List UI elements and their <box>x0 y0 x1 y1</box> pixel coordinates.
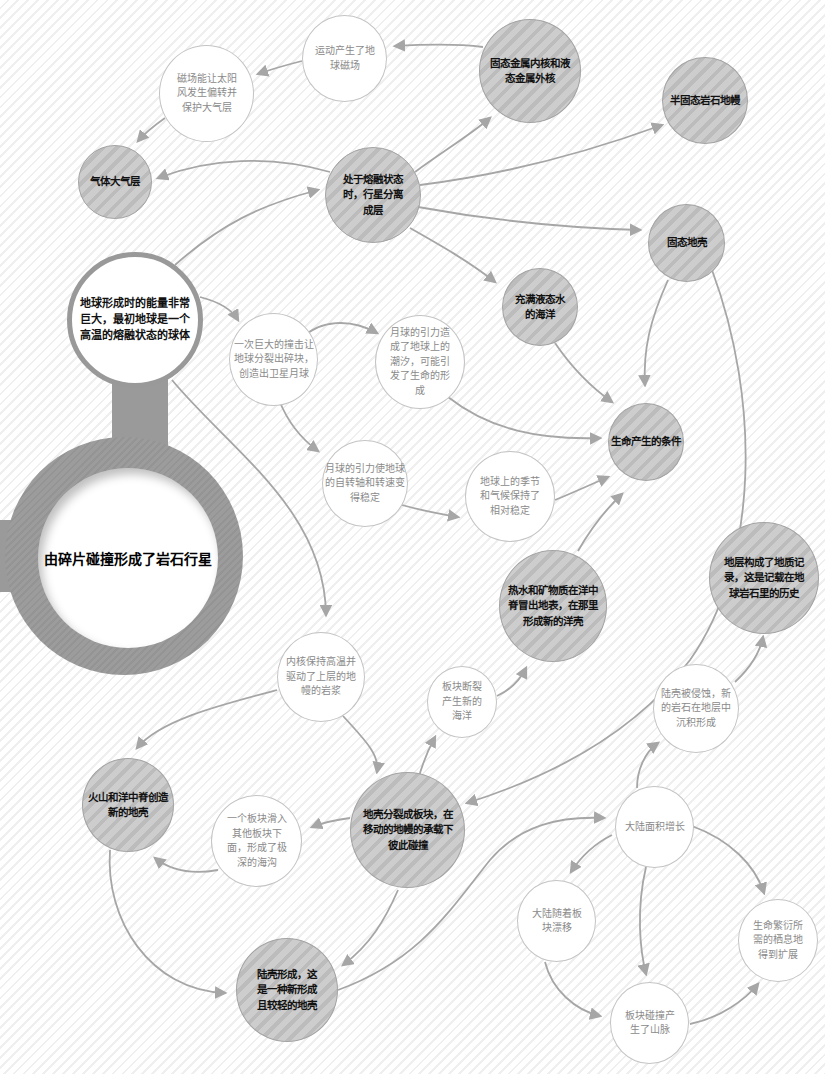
node-label: 运动产生了地球磁场 <box>312 44 378 73</box>
edge-hot-earth-to-impact <box>200 297 238 320</box>
node-label: 固态地壳 <box>667 235 707 250</box>
edge-magnetic-to-solarwind <box>258 61 302 74</box>
node-label: 大陆面积增长 <box>625 820 685 835</box>
edge-crust-to-life <box>645 280 668 385</box>
edge-growth-to-habitat <box>692 826 764 893</box>
node-subduction[interactable]: 一个板块滑入其他板块下面，形成了极深的海沟 <box>211 795 302 887</box>
node-label: 月球的引力使地球的自转轴和转速变得稳定 <box>325 462 405 506</box>
node-hydrothermal[interactable]: 热水和矿物质在洋中脊冒出地表，在那里形成新的洋壳 <box>499 550 607 662</box>
edge-drift-to-mountains <box>545 962 600 1016</box>
node-impact-moon[interactable]: 一次巨大的撞击让地球分裂出碎块，创造出卫星月球 <box>229 313 318 406</box>
edge-rotation-to-seasons <box>402 505 458 517</box>
node-life-conditions[interactable]: 生命产生的条件 <box>608 403 684 481</box>
edge-growth-to-erosion <box>637 743 658 788</box>
node-label: 板块碰撞产生了山脉 <box>622 1009 678 1038</box>
edge-layering-to-mantle <box>420 125 662 185</box>
edge-split-to-hydro <box>497 668 526 696</box>
edge-mountains-to-habitat <box>690 984 758 1024</box>
edge-layering-to-crust <box>418 207 640 230</box>
node-rotation[interactable]: 月球的引力使地球的自转轴和转速变得稳定 <box>322 440 408 527</box>
node-mountains[interactable]: 板块碰撞产生了山脉 <box>610 982 689 1064</box>
edge-innercore-to-plates <box>343 716 377 772</box>
edge-seasons-to-life <box>555 477 608 500</box>
node-seasons[interactable]: 地球上的季节和气候保持了相对稳定 <box>465 451 555 542</box>
edge-plates-to-subduction <box>312 818 350 827</box>
node-label: 半固态岩石地幔 <box>670 93 740 108</box>
node-continent-growth[interactable]: 大陆面积增长 <box>615 786 694 868</box>
root-node[interactable]: 由碎片碰撞形成了岩石行星 <box>38 468 218 648</box>
node-volcano[interactable]: 火山和洋中脊创造新的地壳 <box>82 758 174 852</box>
node-label: 大陆随着板块漂移 <box>531 907 583 936</box>
concept-map: 由碎片碰撞形成了岩石行星 地球形成时的能量非常巨大，最初地球是一个高温的熔融状态… <box>0 0 825 1074</box>
node-label: 热水和矿物质在洋中脊冒出地表，在那里形成新的洋壳 <box>505 583 601 629</box>
node-plate-split[interactable]: 板块断裂产生新的海洋 <box>427 666 497 738</box>
edge-erosion-to-strata <box>735 637 763 682</box>
node-ocean[interactable]: 充满液态水的海洋 <box>502 268 578 346</box>
node-atmosphere[interactable]: 气体大气层 <box>78 145 152 219</box>
edge-hot-earth-to-layering <box>175 190 318 265</box>
node-label: 内核保持高温并驱动了上层的地幔的岩浆 <box>284 655 358 699</box>
edge-impact-to-tides <box>302 323 377 338</box>
node-magnetic-field[interactable]: 运动产生了地球磁场 <box>302 15 387 102</box>
node-label: 生命产生的条件 <box>611 434 681 449</box>
node-label: 一次巨大的撞击让地球分裂出碎块，创造出卫星月球 <box>234 338 314 382</box>
node-label: 磁场能让太阳风发生偏转并保护大气层 <box>173 72 241 116</box>
edge-growth-to-mountains <box>640 867 646 974</box>
node-label: 地壳分裂成板块，在移动的地幔的承载下彼此碰撞 <box>362 807 454 853</box>
node-continental-crust[interactable]: 陆壳形成，这是一种新形成且较轻的地壳 <box>236 938 338 1042</box>
node-plates[interactable]: 地壳分裂成板块，在移动的地幔的承载下彼此碰撞 <box>350 772 465 888</box>
node-erosion[interactable]: 陆壳被侵蚀，新的岩石在地层中沉积形成 <box>653 664 739 753</box>
node-label: 一个板块滑入其他板块下面，形成了极深的海沟 <box>223 812 291 870</box>
edge-hydro-to-life <box>578 494 622 551</box>
node-label: 陆壳被侵蚀，新的岩石在地层中沉积形成 <box>659 687 733 731</box>
node-label: 地球形成时的能量非常巨大，最初地球是一个高温的熔融状态的球体 <box>79 296 191 344</box>
node-strata-record[interactable]: 地层构成了地质记录，这是记载在地球岩石里的历史 <box>709 522 819 634</box>
node-label: 地球上的季节和气候保持了相对稳定 <box>480 475 540 519</box>
edge-solarwind-to-atmosphere <box>138 118 165 141</box>
node-label: 火山和洋中脊创造新的地壳 <box>87 790 169 820</box>
node-label: 处于熔融状态时，行星分离成层 <box>339 172 407 218</box>
edge-layering-to-ocean <box>410 228 495 282</box>
edge-core-to-magnetic <box>395 45 483 47</box>
node-label: 固态金属内核和液态金属外核 <box>490 56 570 86</box>
node-inner-core-heat[interactable]: 内核保持高温并驱动了上层的地幔的岩浆 <box>277 632 365 722</box>
node-hot-earth[interactable]: 地球形成时的能量非常巨大，最初地球是一个高温的熔融状态的球体 <box>67 252 203 388</box>
node-label: 充满液态水的海洋 <box>511 292 569 322</box>
node-label: 地层构成了地质记录，这是记载在地球岩石里的历史 <box>722 555 806 601</box>
node-tides[interactable]: 月球的引力造成了地球上的潮汐，可能引发了生命的形成 <box>375 315 465 409</box>
node-core[interactable]: 固态金属内核和液态金属外核 <box>479 19 581 123</box>
root-label: 由碎片碰撞形成了岩石行星 <box>44 548 212 568</box>
node-label: 板块断裂产生新的海洋 <box>438 680 486 724</box>
edge-ocean-to-life <box>555 343 612 402</box>
edge-layering-to-core <box>415 118 490 172</box>
edge-growth-to-drift <box>571 835 612 872</box>
node-mantle[interactable]: 半固态岩石地幔 <box>662 57 748 144</box>
edge-impact-to-rotation <box>279 400 318 451</box>
node-crust[interactable]: 固态地壳 <box>648 204 725 282</box>
edge-tides-to-life <box>448 397 600 438</box>
node-habitat[interactable]: 生命繁衍所需的栖息地得到扩展 <box>738 899 818 982</box>
edge-subduction-to-volcano <box>155 858 218 872</box>
node-label: 生命繁衍所需的栖息地得到扩展 <box>753 919 803 963</box>
node-label: 月球的引力造成了地球上的潮汐，可能引发了生命的形成 <box>388 326 452 399</box>
node-label: 气体大气层 <box>90 174 140 189</box>
edge-layering-to-atmosphere <box>158 161 330 178</box>
node-label: 陆壳形成，这是一种新形成且较轻的地壳 <box>253 967 321 1013</box>
edge-innercore-to-volcano <box>137 690 277 748</box>
edge-plates-to-contcrust <box>343 890 398 965</box>
node-layering[interactable]: 处于熔融状态时，行星分离成层 <box>325 147 421 243</box>
node-solar-wind[interactable]: 磁场能让太阳风发生偏转并保护大气层 <box>159 45 254 142</box>
node-drift[interactable]: 大陆随着板块漂移 <box>517 880 596 962</box>
